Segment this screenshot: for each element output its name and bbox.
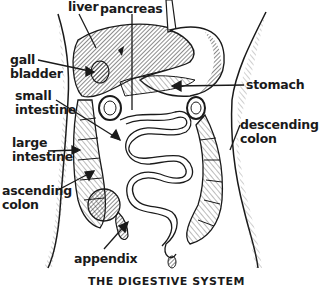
- small-intestine-organ: [120, 111, 193, 257]
- label-liver: liver: [68, 0, 98, 13]
- label-descending-colon-line1: descending: [240, 118, 319, 131]
- label-pancreas: pancreas: [100, 2, 163, 15]
- label-descending-colon-line2: colon: [240, 132, 277, 145]
- diagram-caption: THE DIGESTIVE SYSTEM: [88, 275, 245, 288]
- descending-colon-organ: [187, 115, 223, 244]
- rectum: [168, 256, 176, 268]
- label-stomach: stomach: [246, 78, 304, 91]
- label-small-intestine-line2: intestine: [15, 103, 76, 116]
- label-ascending-colon-line2: colon: [2, 198, 39, 211]
- label-ascending-colon-line1: ascending: [2, 184, 72, 197]
- label-gall-bladder-line2: bladder: [10, 67, 63, 80]
- label-large-intestine-line2: intestine: [12, 150, 73, 163]
- label-large-intestine-line1: large: [12, 136, 47, 149]
- label-gall-bladder-line1: gall: [10, 53, 35, 66]
- torso-left-side: [44, 14, 69, 268]
- esophagus: [166, 0, 176, 32]
- label-small-intestine-line1: small: [15, 89, 51, 102]
- label-appendix: appendix: [74, 252, 137, 265]
